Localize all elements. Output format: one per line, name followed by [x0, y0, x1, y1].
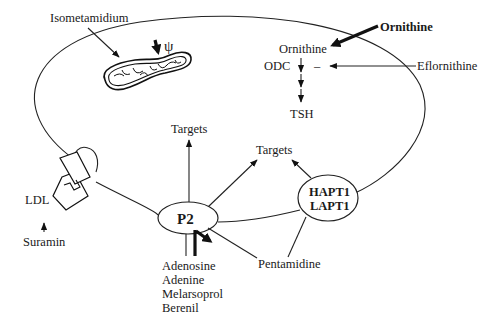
hapt1-label: HAPT1	[309, 185, 350, 199]
psi-symbol: ψ	[164, 38, 174, 54]
drug-uptake-diagram: Isometamidium ψ Ornithine Ornithine ODC …	[0, 0, 482, 321]
substrate-adenine: Adenine	[162, 273, 205, 287]
inhibit-sign: –	[313, 59, 321, 73]
hapt1-lapt1-transporter: HAPT1 LAPT1	[298, 175, 358, 221]
p2-label: P2	[177, 211, 194, 227]
p2-substrate-list: Adenosine Adenine Melarsoprol Berenil	[162, 259, 224, 315]
suramin-label: Suramin	[23, 235, 66, 249]
pentamidine-to-p2-line	[208, 228, 257, 258]
substrate-adenosine: Adenosine	[162, 259, 216, 273]
substrate-melarsoprol: Melarsoprol	[162, 287, 224, 301]
ldl-label: LDL	[25, 193, 49, 207]
lapt1-label: LAPT1	[310, 199, 350, 213]
ornithine-import-arrow	[333, 26, 378, 45]
pentamidine-to-hapt1-line	[288, 217, 306, 257]
odc-label: ODC	[264, 59, 290, 73]
pentamidine-label: Pentamidine	[258, 257, 321, 271]
isometamidium-arrow	[88, 28, 119, 57]
ornithine-inside-label: Ornithine	[279, 42, 327, 56]
targets-right-label: Targets	[256, 143, 293, 157]
tsh-label: TSH	[290, 107, 314, 121]
ornithine-outside-label: Ornithine	[380, 20, 433, 34]
hapt1-to-targets-arrow	[292, 160, 311, 178]
ldl-receptor-icon	[53, 147, 98, 210]
targets-left-label: Targets	[171, 122, 208, 136]
eflornithine-label: Eflornithine	[417, 59, 478, 73]
p2-to-targets-right-arrow	[208, 160, 257, 207]
mitochondrion-icon	[104, 52, 191, 89]
substrate-berenil: Berenil	[162, 301, 199, 315]
isometamidium-label: Isometamidium	[50, 11, 129, 25]
psi-arrow	[155, 40, 158, 52]
cell-membrane	[34, 16, 424, 222]
